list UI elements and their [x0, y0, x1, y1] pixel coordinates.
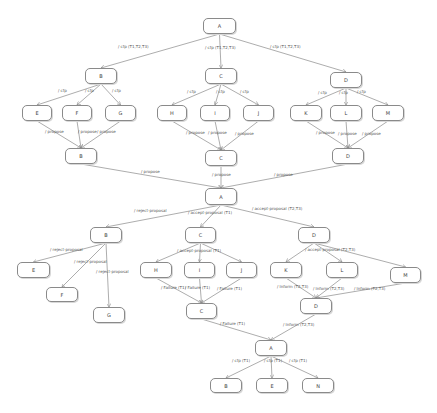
state-node-b: B	[90, 227, 122, 243]
transition-arrow	[346, 88, 388, 105]
transition-label: / propose	[45, 129, 64, 134]
transition-label: / propose	[78, 129, 97, 134]
state-node-n: N	[302, 378, 334, 393]
state-node-e: E	[22, 105, 52, 121]
transition-label: / cfp	[112, 88, 121, 93]
transition-label: / propose	[338, 131, 357, 136]
transition-label: / propose	[186, 130, 205, 135]
transition-label: / accept-proposal (T1)	[188, 210, 232, 215]
transition-arrow	[77, 121, 81, 148]
transition-label: / cfp (T1)	[289, 358, 307, 363]
state-node-f: F	[46, 287, 78, 302]
transition-label: / cfp (T1)	[232, 358, 250, 363]
transition-label: / reject-proposal	[50, 247, 83, 252]
transition-arrow	[172, 121, 221, 150]
transition-label: / accept-proposal (T2,T3)	[305, 247, 355, 252]
transition-arrow	[106, 243, 109, 307]
state-diagram: / cfp (T1,T2,T3)/ cfp (T1,T2,T3)/ cfp (T…	[0, 0, 437, 413]
state-node-g: G	[93, 307, 125, 323]
state-node-j: J	[226, 262, 257, 278]
state-node-b: B	[210, 378, 242, 393]
state-node-g: G	[105, 105, 136, 121]
transition-label: / cfp	[216, 89, 225, 94]
state-node-b: B	[85, 68, 117, 84]
transition-label: / reject-proposal	[74, 259, 107, 264]
state-node-i: I	[200, 105, 230, 121]
transition-label: / cfp	[187, 89, 196, 94]
transition-label: / propose	[97, 129, 116, 134]
transition-arrow	[172, 84, 221, 105]
transition-label: / accept-proposal (T2,T3)	[252, 206, 302, 211]
state-node-m: M	[390, 267, 421, 283]
state-node-c: C	[205, 68, 237, 84]
state-node-l: L	[326, 262, 358, 278]
transition-label: / reject-proposal	[134, 208, 167, 213]
transition-label: / Failure (T1)	[161, 285, 186, 290]
transition-arrow	[156, 278, 202, 303]
state-node-d: D	[332, 148, 364, 164]
state-node-h: H	[157, 105, 187, 121]
transition-label: / Failure (T1)	[220, 321, 245, 326]
state-node-d: D	[330, 72, 362, 88]
transition-label: / Inform (T2,T3)	[354, 286, 385, 291]
state-node-d: D	[298, 227, 330, 243]
transition-label: / Inform (T2,T3)	[277, 284, 308, 289]
transition-label: / cfp	[339, 90, 348, 95]
transition-label: / Inform (T2,T3)	[283, 322, 314, 327]
state-node-b: B	[65, 148, 97, 164]
state-node-h: H	[140, 262, 172, 278]
transition-arrow	[200, 278, 202, 303]
state-node-a: A	[203, 18, 236, 34]
transition-arrow	[220, 34, 222, 68]
state-node-a: A	[255, 340, 287, 356]
edge-layer	[0, 0, 437, 413]
state-node-d: D	[300, 298, 332, 314]
state-node-f: F	[62, 105, 92, 121]
state-node-c: C	[205, 150, 237, 166]
transition-arrow	[215, 121, 221, 150]
transition-arrow	[37, 121, 81, 148]
transition-arrow	[271, 314, 316, 340]
transition-label: / propose	[212, 172, 231, 177]
transition-label: / Failure (T1)	[185, 285, 210, 290]
state-node-j: J	[243, 105, 274, 121]
transition-arrow	[81, 164, 221, 188]
transition-label: / cfp (T1)	[264, 358, 282, 363]
transition-label: / Inform (T2,T3)	[313, 286, 344, 291]
transition-label: / cfp	[58, 88, 67, 93]
transition-label: / cfp (T1,T2,T3)	[270, 44, 301, 49]
state-node-e: E	[256, 378, 288, 393]
state-node-k: K	[270, 262, 302, 278]
transition-label: / cfp	[85, 88, 94, 93]
state-node-c: C	[186, 303, 217, 319]
state-node-i: I	[184, 262, 215, 278]
transition-label: / cfp	[240, 89, 249, 94]
transition-label: / propose	[274, 172, 293, 177]
state-node-m: M	[372, 105, 404, 121]
transition-label: / Failure (T1)	[217, 286, 242, 291]
transition-label: / cfp	[318, 90, 327, 95]
transition-arrow	[286, 243, 314, 262]
transition-label: / cfp (T1,T2,T3)	[205, 45, 236, 50]
state-node-k: K	[290, 105, 322, 121]
transition-arrow	[220, 34, 347, 72]
transition-arrow	[215, 84, 221, 105]
transition-arrow	[101, 34, 220, 68]
state-node-l: L	[330, 105, 362, 121]
state-node-e: E	[17, 262, 50, 278]
transition-label: / propose	[141, 169, 160, 174]
state-node-c: C	[185, 227, 216, 243]
transition-label: / propose	[362, 131, 381, 136]
transition-label: / cfp (T1,T2,T3)	[118, 44, 149, 49]
transition-arrow	[81, 121, 121, 148]
transition-label: / accept-proposal (T1)	[177, 248, 221, 253]
state-node-a: A	[205, 188, 237, 205]
transition-label: / propose	[208, 130, 227, 135]
transition-arrow	[221, 84, 259, 105]
transition-label: / reject-proposal	[96, 269, 129, 274]
transition-label: / cfp	[357, 89, 366, 94]
transition-label: / propose	[316, 130, 335, 135]
transition-arrow	[314, 243, 342, 262]
transition-label: / propose	[235, 131, 254, 136]
